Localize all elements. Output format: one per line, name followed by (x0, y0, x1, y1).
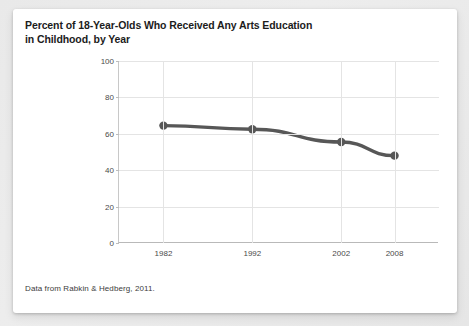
y-tick-mark (116, 170, 119, 171)
y-tick-label: 100 (101, 57, 114, 66)
chart-plot-area: 0204060801001982199220022008 (118, 61, 438, 243)
y-tick-mark (116, 61, 119, 62)
y-tick-mark (116, 134, 119, 135)
screenshot-root: Percent of 18-Year-Olds Who Received Any… (0, 0, 469, 326)
y-tick-mark (116, 207, 119, 208)
y-gridline (119, 61, 439, 62)
chart-title-line-1: Percent of 18-Year-Olds Who Received Any… (25, 19, 312, 31)
y-tick-label: 40 (105, 166, 114, 175)
x-tick-label: 1982 (155, 249, 173, 258)
chart-card: Percent of 18-Year-Olds Who Received Any… (13, 9, 457, 313)
y-tick-mark (116, 243, 119, 244)
x-gridline (163, 61, 164, 243)
y-gridline (119, 97, 439, 98)
chart-title-line-2: in Childhood, by Year (25, 32, 395, 46)
x-tick-label: 2002 (332, 249, 350, 258)
chart-plot-wrapper: 0204060801001982199220022008 (118, 61, 438, 243)
x-gridline (341, 61, 342, 243)
y-tick-label: 0 (110, 239, 114, 248)
y-tick-label: 20 (105, 202, 114, 211)
series-line (163, 126, 394, 156)
y-gridline (119, 170, 439, 171)
x-gridline (252, 61, 253, 243)
x-tick-label: 2008 (386, 249, 404, 258)
x-gridline (395, 61, 396, 243)
line-series-svg (119, 61, 439, 243)
y-tick-mark (116, 97, 119, 98)
y-tick-label: 80 (105, 93, 114, 102)
y-tick-label: 60 (105, 129, 114, 138)
page-title: Percent of 18-Year-Olds Who Received Any… (25, 18, 395, 46)
source-note: Data from Rabkin & Hedberg, 2011. (25, 284, 155, 293)
x-tick-label: 1992 (243, 249, 261, 258)
y-gridline (119, 134, 439, 135)
y-gridline (119, 207, 439, 208)
